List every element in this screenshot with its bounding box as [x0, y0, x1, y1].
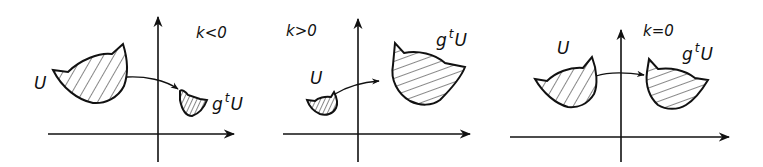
flow-arrow: [596, 73, 644, 76]
set-gtU-label: gtU: [212, 96, 243, 113]
g-symbol: g: [436, 30, 447, 50]
phase-flow-figure: k<0 U gtU k>0 U gtU k=0 U gtU: [0, 0, 763, 167]
set-U: [53, 44, 127, 103]
condition-label: k=0: [643, 24, 674, 39]
set-gtU-label: gtU: [682, 46, 713, 63]
U-symbol: U: [231, 94, 243, 114]
set-U-label: U: [310, 70, 322, 87]
g-symbol: g: [682, 44, 693, 64]
flow-arrow: [127, 77, 178, 89]
set-gtU-label: gtU: [436, 32, 467, 49]
set-gtU: [392, 43, 465, 105]
t-superscript: t: [449, 27, 454, 41]
set-U-label: U: [34, 75, 46, 92]
g-symbol: g: [212, 94, 223, 114]
t-superscript: t: [695, 41, 700, 55]
set-gtU: [647, 59, 708, 109]
condition-label: k>0: [286, 24, 317, 39]
set-U-label: U: [557, 40, 569, 57]
U-symbol: U: [701, 44, 713, 64]
t-superscript: t: [225, 91, 230, 105]
U-symbol: U: [455, 30, 467, 50]
flow-arrow: [335, 81, 379, 94]
condition-label: k<0: [196, 26, 227, 41]
set-U: [535, 57, 596, 107]
set-U: [307, 92, 337, 115]
set-gtU: [180, 90, 207, 116]
